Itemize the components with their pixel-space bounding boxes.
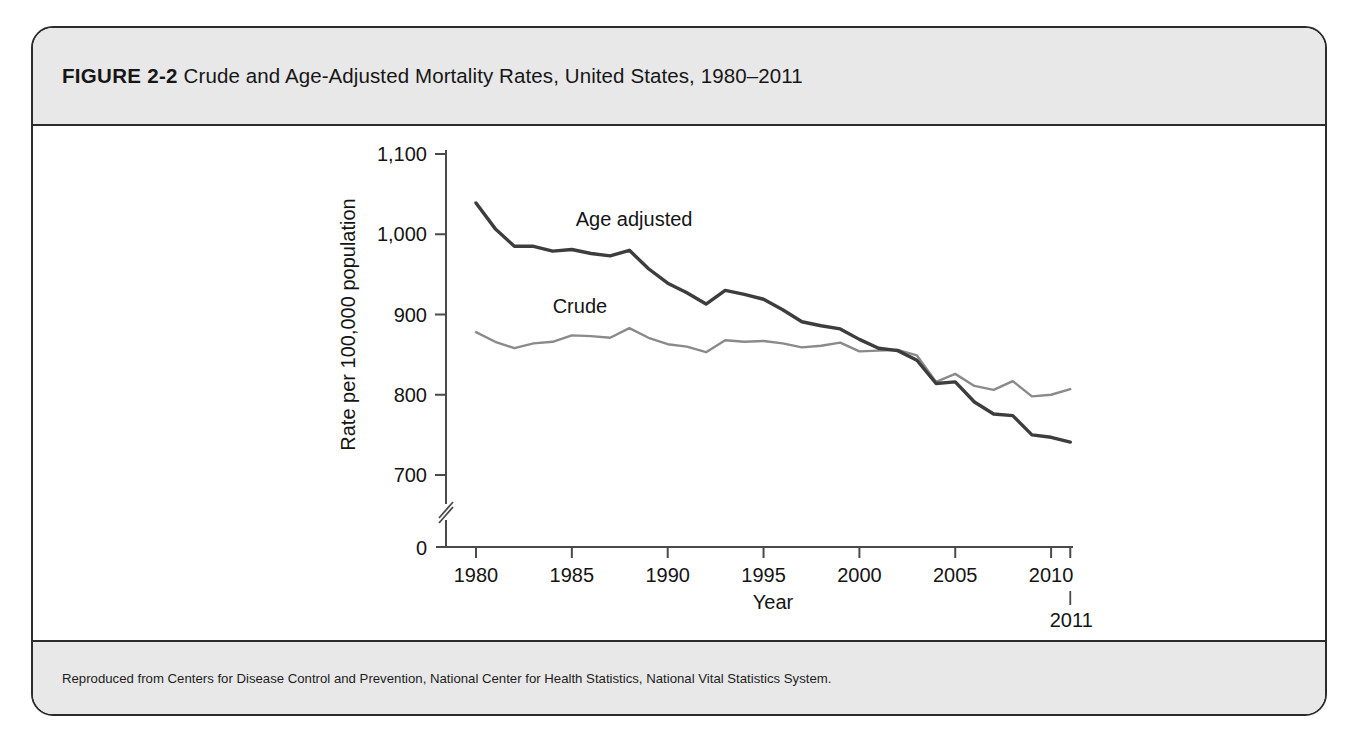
y-tick-label-900: 900: [394, 304, 427, 326]
series-line-age-adjusted: [476, 203, 1070, 442]
figure-caption-text: Crude and Age-Adjusted Mortality Rates, …: [184, 64, 803, 87]
x-tick-label-2010: 2010: [1029, 564, 1074, 586]
y-tick-label-1100: 1,100: [377, 143, 427, 165]
y-axis-title: Rate per 100,000 population: [337, 198, 359, 450]
x-tick-label-1995: 1995: [741, 564, 786, 586]
y-zero-label: 0: [416, 537, 427, 559]
figure-container: FIGURE 2-2 Crude and Age-Adjusted Mortal…: [31, 26, 1327, 716]
figure-source-note: Reproduced from Centers for Disease Cont…: [33, 671, 831, 686]
x-tick-label-1980: 1980: [454, 564, 499, 586]
series-line-crude: [476, 328, 1070, 396]
chart-plot-region: 7008009001,0001,1000Rate per 100,000 pop…: [33, 126, 1325, 642]
figure-title: FIGURE 2-2 Crude and Age-Adjusted Mortal…: [33, 64, 803, 88]
series-label-crude: Crude: [553, 295, 607, 317]
y-tick-label-800: 800: [394, 384, 427, 406]
figure-header-band: FIGURE 2-2 Crude and Age-Adjusted Mortal…: [33, 28, 1325, 126]
x-tick-label-2011: 2011: [1050, 609, 1093, 631]
line-chart: 7008009001,0001,1000Rate per 100,000 pop…: [33, 126, 1325, 642]
y-tick-label-1000: 1,000: [377, 223, 427, 245]
y-tick-label-700: 700: [394, 464, 427, 486]
figure-number: FIGURE 2-2: [62, 64, 178, 87]
x-axis-title: Year: [753, 591, 794, 613]
figure-footer-band: Reproduced from Centers for Disease Cont…: [33, 640, 1325, 714]
x-tick-label-1990: 1990: [645, 564, 690, 586]
series-label-age-adjusted: Age adjusted: [576, 208, 693, 230]
x-tick-label-2000: 2000: [837, 564, 882, 586]
x-tick-label-1985: 1985: [550, 564, 595, 586]
x-tick-label-2005: 2005: [933, 564, 978, 586]
